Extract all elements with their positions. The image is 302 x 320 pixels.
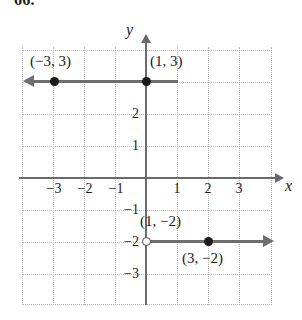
figure-root: 66. x y −3 −2 −1 1 2 3 — [0, 0, 302, 320]
gridline-horizontal — [22, 146, 272, 147]
point-marker-open — [142, 237, 151, 246]
x-axis-label: x — [285, 177, 292, 195]
point-label-neg3-3: (−3, 3) — [30, 53, 71, 70]
y-tick-label: 1 — [123, 138, 139, 154]
point-label-1-neg2: (1, −2) — [140, 213, 181, 230]
y-tick-label: −2 — [118, 234, 139, 250]
gridline-vertical — [84, 47, 85, 305]
x-tick-label: −2 — [76, 181, 94, 197]
gridline-vertical — [271, 47, 272, 305]
x-tick-label: 3 — [232, 181, 246, 197]
gridline-horizontal — [22, 274, 272, 275]
point-marker-closed — [204, 237, 213, 246]
y-axis-arrow-icon — [141, 34, 151, 43]
gridline-vertical — [239, 47, 240, 305]
x-axis — [19, 177, 275, 179]
x-tick-label: −1 — [107, 181, 125, 197]
coordinate-plane: x y −3 −2 −1 1 2 3 2 1 −1 −2 −3 (−3, 3) … — [22, 47, 272, 305]
y-axis-label: y — [126, 21, 133, 39]
x-axis-arrow-icon — [275, 173, 284, 183]
y-tick-label: −1 — [118, 202, 139, 218]
lower-ray-arrow-icon — [263, 235, 274, 247]
gridline-vertical — [115, 47, 116, 305]
x-tick-label: −3 — [45, 181, 63, 197]
y-tick-label: −3 — [118, 266, 139, 282]
gridline-horizontal — [22, 114, 272, 115]
gridline-horizontal — [22, 50, 272, 51]
gridline-horizontal — [22, 304, 272, 305]
x-tick-label: 2 — [201, 181, 215, 197]
problem-number: 66. — [14, 0, 35, 9]
x-tick-label: 1 — [170, 181, 184, 197]
gridline-horizontal — [22, 210, 272, 211]
upper-ray-arrow-icon — [23, 75, 34, 87]
point-marker-closed — [50, 77, 59, 86]
point-label-3-neg2: (3, −2) — [182, 250, 223, 267]
y-tick-label: 2 — [123, 106, 139, 122]
point-label-1-3: (1, 3) — [150, 53, 183, 70]
gridline-vertical — [177, 47, 178, 305]
point-marker-closed — [142, 77, 151, 86]
